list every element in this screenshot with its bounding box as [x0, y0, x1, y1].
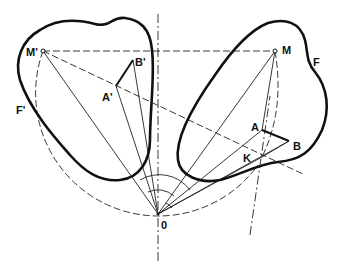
point-m: [273, 49, 277, 53]
label-b: B: [293, 140, 301, 152]
rotation-arc: [36, 51, 258, 216]
rotation-construction-diagram: M' M A' B' A B K 0 F F': [0, 0, 339, 270]
figure-f: [178, 21, 327, 181]
line-m-a: [262, 51, 275, 130]
figure-f-prime: [18, 18, 153, 180]
label-a: A: [251, 121, 259, 133]
label-f-prime: F': [16, 104, 26, 116]
segment-a-prime-b-prime: [116, 60, 133, 86]
label-f: F: [313, 56, 320, 68]
point-m-prime: [41, 49, 45, 53]
label-k: K: [243, 152, 251, 164]
label-b-prime: B': [135, 56, 146, 68]
label-o: 0: [161, 219, 167, 231]
label-m: M: [282, 44, 291, 56]
dashed-line-m-prime-a-prime: [43, 51, 305, 175]
label-a-prime: A': [102, 91, 113, 103]
rotation-arc-upper-right: [262, 51, 278, 157]
point-o: [157, 213, 160, 216]
line-b-k: [262, 141, 289, 157]
label-m-prime: M': [26, 46, 38, 58]
segment-a-b: [262, 130, 289, 141]
